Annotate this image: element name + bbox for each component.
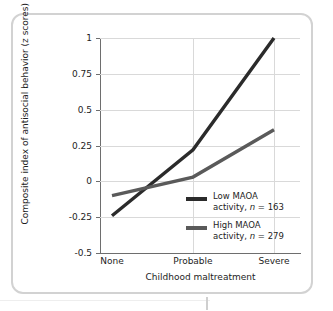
legend-entry: High MAOAactivity, n = 279 [186,222,304,246]
series-line [112,130,274,196]
legend-entry: Low MAOAactivity, n = 163 [186,193,304,217]
y-axis-title: Composite index of antisocial behavior (… [20,20,30,225]
x-tick-label: None [77,256,147,267]
x-axis-title: Childhood maltreatment [100,272,301,282]
y-tick-label: 0 [52,176,92,186]
y-tick-label: 0.5 [52,105,92,115]
y-tick-mark [96,253,100,254]
y-tick-label: 0.25 [52,141,92,151]
x-tick-label: Probable [158,256,228,267]
x-tick-label: Severe [239,256,309,267]
y-tick-label: -0.25 [52,212,92,222]
legend-swatch [186,197,207,201]
legend-label: High MAOAactivity, n = 279 [213,220,305,242]
page-tick-mark [206,297,208,310]
y-tick-label: 0.75 [52,69,92,79]
legend-label: Low MAOAactivity, n = 163 [213,191,305,213]
legend: Low MAOAactivity, n = 163High MAOAactivi… [186,193,304,251]
legend-swatch [186,226,207,230]
y-tick-label: 1 [52,33,92,43]
page-rule [0,300,210,301]
x-axis-line [100,253,301,254]
